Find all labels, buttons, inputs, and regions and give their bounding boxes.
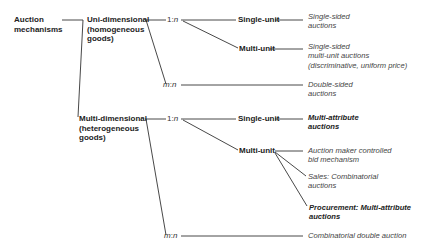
uni-multi-unit-leaf: Single-sided multi-unit auctions (discri… bbox=[308, 42, 407, 70]
uni-ratio-m-n: m:n bbox=[163, 80, 176, 89]
leaf-line: Sales: Combinatorial bbox=[308, 172, 378, 181]
uni-ratio-1-n: 1:n bbox=[167, 15, 178, 24]
leaf-line: Multi-attribute bbox=[308, 113, 359, 122]
multi-label-line1: Multi-dimensional bbox=[79, 114, 147, 124]
multi-mn-leaf: Combinatorial double auction bbox=[308, 231, 406, 240]
ratio-n: n bbox=[174, 114, 178, 123]
multi-ratio-m-n: m:n bbox=[164, 231, 177, 240]
leaf-line: auctions bbox=[308, 122, 359, 131]
multi-label-line3: goods) bbox=[79, 133, 147, 143]
leaf-line: Procurement: Multi-attribute bbox=[309, 203, 411, 212]
multi-single-unit-leaf: Multi-attribute auctions bbox=[308, 113, 359, 132]
uni-mn-leaf: Double-sided auctions bbox=[308, 80, 353, 99]
multi-multi-unit-leaf-c: Procurement: Multi-attribute auctions bbox=[309, 203, 411, 222]
root-label-line1: Auction bbox=[14, 15, 62, 25]
multi-dimensional-node: Multi-dimensional (heterogeneous goods) bbox=[79, 114, 147, 143]
uni-multi-unit: Multi-unit bbox=[239, 44, 275, 54]
ratio-n: n bbox=[173, 231, 177, 240]
multi-single-unit: Single-unit bbox=[238, 114, 279, 124]
leaf-line: Auction maker controlled bbox=[308, 146, 392, 155]
leaf-line: multi-unit auctions bbox=[308, 51, 407, 60]
uni-label-line3: goods) bbox=[87, 34, 149, 44]
auction-taxonomy-diagram: Auction mechanisms Uni-dimensional (homo… bbox=[0, 0, 425, 252]
multi-multi-unit-leaf-b: Sales: Combinatorial auctions bbox=[308, 172, 378, 191]
leaf-line: auctions bbox=[308, 21, 350, 30]
leaf-line: Single-sided bbox=[308, 12, 350, 21]
ratio-m: m bbox=[164, 231, 171, 240]
root-label-line2: mechanisms bbox=[14, 25, 62, 35]
multi-multi-unit: Multi-unit bbox=[239, 146, 275, 156]
ratio-n: n bbox=[172, 80, 176, 89]
uni-single-unit-leaf: Single-sided auctions bbox=[308, 12, 350, 31]
leaf-line: Single-sided bbox=[308, 42, 407, 51]
leaf-line: auctions bbox=[308, 181, 378, 190]
leaf-line: auctions bbox=[308, 89, 353, 98]
leaf-line: bid mechanism bbox=[308, 155, 392, 164]
leaf-line: (discriminative, uniform price) bbox=[308, 61, 407, 70]
multi-label-line2: (heterogeneous bbox=[79, 124, 147, 134]
uni-single-unit: Single-unit bbox=[238, 15, 279, 25]
leaf-line: Double-sided bbox=[308, 80, 353, 89]
leaf-line: auctions bbox=[309, 212, 411, 221]
uni-dimensional-node: Uni-dimensional (homogeneous goods) bbox=[87, 15, 149, 44]
ratio-n: n bbox=[174, 15, 178, 24]
multi-ratio-1-n: 1:n bbox=[167, 114, 178, 123]
uni-label-line2: (homogeneous bbox=[87, 25, 149, 35]
uni-label-line1: Uni-dimensional bbox=[87, 15, 149, 25]
multi-multi-unit-leaf-a: Auction maker controlled bid mechanism bbox=[308, 146, 392, 165]
ratio-m: m bbox=[163, 80, 170, 89]
root-node: Auction mechanisms bbox=[14, 15, 62, 34]
